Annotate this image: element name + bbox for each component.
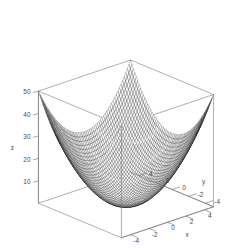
z-tick-label: 40 bbox=[23, 111, 31, 118]
x-tick-label: -4 bbox=[133, 237, 139, 244]
perspective-surface-canvas: 1020304050z-4-2024x-4-2024y bbox=[0, 0, 249, 248]
y-tick-label: 4 bbox=[149, 170, 153, 177]
x-axis-title: x bbox=[185, 231, 189, 238]
z-tick-label: 50 bbox=[23, 88, 31, 95]
z-tick-label: 30 bbox=[23, 133, 31, 140]
x-tick-label: 4 bbox=[208, 212, 212, 219]
y-tick-label: -2 bbox=[198, 191, 204, 198]
surface-plot-figure: 1020304050z-4-2024x-4-2024y bbox=[0, 0, 249, 248]
z-tick-label: 10 bbox=[23, 178, 31, 185]
x-tick-label: 0 bbox=[171, 224, 175, 231]
x-tick-label: 2 bbox=[190, 218, 194, 225]
y-tick-label: 2 bbox=[166, 177, 170, 184]
y-tick-label: -4 bbox=[214, 198, 220, 205]
y-tick-label: 0 bbox=[182, 184, 186, 191]
z-tick-label: 20 bbox=[23, 156, 31, 163]
x-tick-label: -2 bbox=[152, 231, 158, 238]
z-axis-title: z bbox=[11, 144, 14, 151]
y-axis-title: y bbox=[202, 178, 206, 186]
